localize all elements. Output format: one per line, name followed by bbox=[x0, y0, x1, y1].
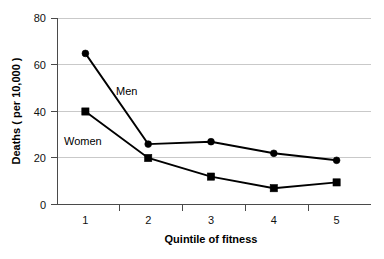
x-axis-title: Quintile of fitness bbox=[165, 233, 258, 245]
y-tick-label-20: 20 bbox=[34, 152, 46, 164]
series-women-point-2 bbox=[145, 154, 152, 161]
series-men-point-4 bbox=[270, 150, 277, 157]
line-chart: 80 60 40 20 0 1 2 3 4 5 Quintile of fitn… bbox=[0, 0, 384, 259]
x-tick-label-2: 2 bbox=[145, 214, 151, 226]
series-women-point-4 bbox=[270, 185, 277, 192]
series-label-men: Men bbox=[116, 85, 137, 97]
chart-container: 80 60 40 20 0 1 2 3 4 5 Quintile of fitn… bbox=[0, 0, 384, 259]
series-men-point-1 bbox=[82, 50, 89, 57]
series-men-point-3 bbox=[208, 138, 215, 145]
x-tick-label-1: 1 bbox=[82, 214, 88, 226]
series-women-point-5 bbox=[333, 179, 340, 186]
x-tick-label-5: 5 bbox=[334, 214, 340, 226]
series-label-women: Women bbox=[64, 135, 102, 147]
series-men-point-5 bbox=[333, 157, 340, 164]
y-tick-label-80: 80 bbox=[34, 12, 46, 24]
series-men-point-2 bbox=[145, 141, 152, 148]
y-tick-label-60: 60 bbox=[34, 59, 46, 71]
x-tick-label-4: 4 bbox=[271, 214, 277, 226]
series-women-point-1 bbox=[82, 108, 89, 115]
y-tick-label-0: 0 bbox=[40, 199, 46, 211]
series-women-point-3 bbox=[207, 173, 214, 180]
y-axis-title: Deaths ( per 10,000 ) bbox=[10, 57, 22, 164]
y-tick-label-40: 40 bbox=[34, 106, 46, 118]
x-tick-label-3: 3 bbox=[208, 214, 214, 226]
